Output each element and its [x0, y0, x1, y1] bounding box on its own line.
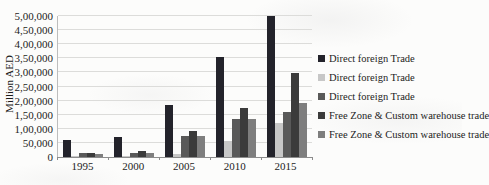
- bar-series-1: [165, 105, 173, 157]
- x-tick-label: 2005: [159, 160, 210, 172]
- legend-marker-icon: [318, 74, 325, 81]
- bar-series-3: [79, 153, 87, 157]
- y-tick-label: 50,000: [23, 137, 53, 148]
- legend-marker-icon: [318, 93, 325, 100]
- bar-series-4: [138, 151, 146, 157]
- bar-series-5: [299, 103, 307, 157]
- legend-marker-icon: [318, 112, 325, 119]
- bar-series-1: [267, 16, 275, 157]
- legend-item-label: Direct foreign Trade: [329, 53, 415, 64]
- legend-item: Direct foreign Trade: [318, 72, 462, 83]
- y-tick-label: 2,00,000: [15, 95, 54, 106]
- y-tick-label: 4,50,000: [15, 25, 54, 36]
- bar-series-4: [189, 131, 197, 157]
- x-tick-label: 2015: [260, 160, 311, 172]
- y-tick-label: 5,00,000: [15, 11, 54, 22]
- bar-series-2: [224, 141, 232, 157]
- bar-group: [160, 16, 211, 157]
- bar-series-4: [87, 153, 95, 158]
- legend-marker-icon: [318, 131, 325, 138]
- y-tick-label: 2,50,000: [15, 81, 54, 92]
- bar-series-1: [114, 137, 122, 157]
- legend-item-label: Free Zone & Custom warehouse trade: [329, 129, 489, 140]
- bar-series-3: [283, 112, 291, 157]
- y-tick-label: 0: [48, 152, 54, 163]
- bar-series-3: [181, 136, 189, 157]
- bar-series-2: [122, 156, 130, 157]
- plot-area: [57, 16, 312, 158]
- y-tick-label: 1,00,000: [15, 123, 54, 134]
- bar-series-4: [291, 73, 299, 157]
- bar-series-3: [232, 119, 240, 157]
- legend-item-label: Direct foreign Trade: [329, 72, 415, 83]
- y-tick-label: 4,00,000: [15, 39, 54, 50]
- bar-series-5: [248, 119, 256, 157]
- y-tick-label: 1,50,000: [15, 109, 54, 120]
- bar-series-5: [146, 153, 154, 157]
- legend-item-label: Direct foreign Trade: [329, 91, 415, 102]
- bar-group: [261, 16, 312, 157]
- bar-series-5: [95, 154, 103, 157]
- x-axis-tick-labels: 19952000200520102015: [57, 160, 311, 172]
- legend-item-label: Free Zone & Custom warehouse trade: [329, 110, 489, 121]
- bar-group: [109, 16, 160, 157]
- bar-series-1: [216, 57, 224, 157]
- x-tick-label: 2010: [209, 160, 260, 172]
- bar-series-2: [71, 156, 79, 157]
- y-tick-label: 3,00,000: [15, 67, 54, 78]
- bar-series-3: [130, 153, 138, 157]
- bar-series-5: [197, 136, 205, 157]
- x-tick-label: 2000: [108, 160, 159, 172]
- bar-series-1: [63, 140, 71, 157]
- bar-group: [58, 16, 109, 157]
- y-axis-tick-labels: 050,0001,00,0001,50,0002,00,0002,50,0003…: [0, 16, 53, 157]
- bar-group: [210, 16, 261, 157]
- y-tick-label: 3,50,000: [15, 53, 54, 64]
- legend-item: Free Zone & Custom warehouse trade: [318, 110, 462, 121]
- legend-item: Free Zone & Custom warehouse trade: [318, 129, 462, 140]
- legend: Direct foreign TradeDirect foreign Trade…: [318, 53, 462, 140]
- x-tick-label: 1995: [57, 160, 108, 172]
- legend-marker-icon: [318, 55, 325, 62]
- legend-item: Direct foreign Trade: [318, 91, 462, 102]
- legend-item: Direct foreign Trade: [318, 53, 462, 64]
- bar-series-2: [275, 123, 283, 157]
- bar-series-2: [173, 154, 181, 157]
- bar-series-4: [240, 108, 248, 157]
- x-axis-tick-mark: [312, 157, 313, 160]
